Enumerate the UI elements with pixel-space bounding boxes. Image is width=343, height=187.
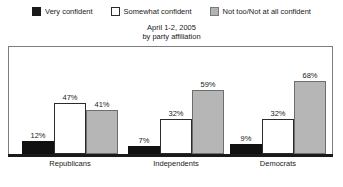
legend-item-somewhat-confident: Somewhat confident (111, 7, 192, 16)
bar-value-label: 12% (22, 131, 54, 140)
legend-label-not-confident: Not too/Not at all confident (223, 7, 311, 16)
bar-value-label: 9% (230, 134, 262, 143)
legend-swatch-white-icon (111, 7, 120, 16)
bar-group-democrats: 9% 32% 68% (230, 46, 326, 154)
bar-value-label: 59% (192, 80, 224, 89)
legend-swatch-black-icon (32, 7, 41, 16)
x-axis-tick-labels: Republicans Independents Democrats (8, 159, 333, 171)
chart-title-block: April 1-2, 2005 by party affiliation (0, 23, 343, 41)
bar-value-label: 41% (86, 100, 118, 109)
chart-legend: Very confident Somewhat confident Not to… (0, 3, 343, 19)
bar-value-label: 47% (54, 93, 86, 102)
bar-value-label: 68% (294, 71, 326, 80)
bar-groups: 12% 47% 41% 7% 32% 59% (8, 46, 333, 154)
legend-swatch-gray-icon (210, 7, 219, 16)
bar-rect (86, 110, 118, 154)
x-tick-label-democrats: Democrats (230, 159, 326, 169)
x-tick-label-independents: Independents (128, 159, 224, 169)
x-tick-label-republicans: Republicans (22, 159, 118, 169)
legend-label-somewhat-confident: Somewhat confident (124, 7, 192, 16)
bar-rect (128, 146, 160, 154)
legend-item-very-confident: Very confident (32, 7, 93, 16)
bar-rect (160, 119, 192, 154)
bar-group-republicans: 12% 47% 41% (22, 46, 118, 154)
bar-rect (54, 103, 86, 154)
bar-rect (192, 90, 224, 154)
bar-rect (22, 141, 54, 154)
legend-label-very-confident: Very confident (45, 7, 93, 16)
bar-value-label: 32% (262, 109, 294, 118)
chart-title: April 1-2, 2005 (0, 23, 343, 32)
bar-rect (230, 144, 262, 154)
bar-value-label: 7% (128, 136, 160, 145)
bar-rect (294, 81, 326, 154)
bar-chart: Very confident Somewhat confident Not to… (0, 0, 343, 187)
bar-group-independents: 7% 32% 59% (128, 46, 224, 154)
chart-subtitle: by party affiliation (0, 32, 343, 41)
x-axis-line (8, 154, 333, 157)
bar-rect (262, 119, 294, 154)
legend-item-not-confident: Not too/Not at all confident (210, 7, 311, 16)
bar-value-label: 32% (160, 109, 192, 118)
